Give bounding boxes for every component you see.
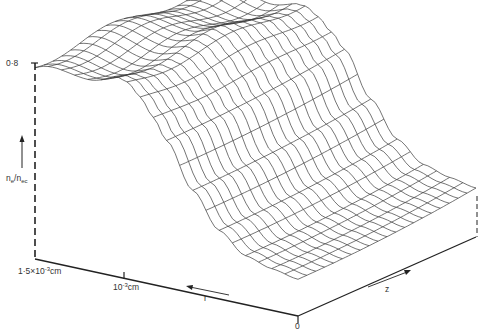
wireframe-mesh bbox=[35, 0, 476, 279]
y-axis-sub2: ec bbox=[21, 178, 27, 184]
mesh-line-r bbox=[62, 56, 325, 267]
z-axis-line bbox=[298, 237, 476, 316]
mesh-line-r bbox=[97, 30, 360, 250]
mesh-line-z bbox=[272, 177, 450, 268]
mesh-line-r bbox=[133, 15, 396, 232]
mesh-line-r bbox=[195, 0, 458, 198]
r-arrow-label: r bbox=[204, 294, 207, 303]
surface-plot bbox=[0, 0, 491, 331]
origin-label: 0 bbox=[295, 322, 300, 331]
mesh-line-z bbox=[285, 183, 463, 274]
mesh-line-r bbox=[124, 18, 387, 237]
mesh-line-z bbox=[245, 164, 423, 255]
mesh-line-z bbox=[259, 171, 437, 262]
mesh-line-r bbox=[186, 0, 449, 203]
mesh-line-z bbox=[180, 74, 358, 165]
mesh-line-r bbox=[53, 61, 316, 272]
r-tick-mid-unit: cm bbox=[128, 282, 139, 292]
r-tick-mid-label: 10-3cm bbox=[113, 282, 139, 292]
z-arrow-head bbox=[404, 270, 411, 275]
z-arrow-label: z bbox=[385, 285, 389, 294]
mesh-line-z bbox=[298, 188, 476, 279]
r-tick-far-unit: cm bbox=[50, 266, 61, 276]
r-tick-far-label: 1·5×10-3cm bbox=[18, 266, 61, 276]
mesh-line-r bbox=[204, 0, 467, 193]
mesh-line-r bbox=[177, 5, 440, 208]
y-axis-label: ne/nec bbox=[6, 174, 28, 184]
r-axis-line bbox=[35, 259, 298, 316]
r-arrow-head bbox=[186, 285, 193, 290]
mesh-line-z bbox=[232, 152, 410, 243]
r-tick-far-base: 1·5×10 bbox=[18, 266, 45, 276]
mesh-line-z bbox=[193, 99, 371, 190]
mesh-line-r bbox=[88, 37, 351, 255]
mesh-line-r bbox=[35, 66, 298, 279]
mesh-line-r bbox=[151, 13, 414, 223]
y-axis-arrow-head bbox=[20, 135, 25, 142]
mesh-line-r bbox=[44, 64, 307, 275]
peak-value-label: 0·8 bbox=[6, 59, 18, 68]
mesh-line-r bbox=[115, 21, 378, 242]
mesh-line-z bbox=[219, 139, 397, 230]
